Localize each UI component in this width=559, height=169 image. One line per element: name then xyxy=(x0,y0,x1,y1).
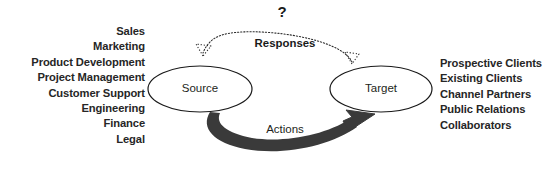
list-item: Finance xyxy=(0,116,145,131)
list-item: Existing Clients xyxy=(440,71,559,86)
target-node-label: Target xyxy=(331,82,431,94)
actions-arrowhead xyxy=(343,110,375,131)
list-item: Public Relations xyxy=(440,102,559,117)
list-item: Collaborators xyxy=(440,118,559,133)
list-item: Sales xyxy=(0,24,145,39)
diagram-canvas: ? Responses Actions Source Target Sales … xyxy=(0,0,559,169)
source-node-label: Source xyxy=(150,82,250,94)
source-roles-list: Sales Marketing Product Development Proj… xyxy=(0,24,145,147)
list-item: Marketing xyxy=(0,39,145,54)
actions-edge-label: Actions xyxy=(245,123,325,135)
list-item: Prospective Clients xyxy=(440,56,559,71)
question-mark-annotation: ? xyxy=(262,3,302,20)
list-item: Legal xyxy=(0,132,145,147)
list-item: Customer Support xyxy=(0,86,145,101)
responses-edge-label: Responses xyxy=(240,37,330,49)
list-item: Project Management xyxy=(0,70,145,85)
responses-arrowhead xyxy=(196,44,211,56)
list-item: Engineering xyxy=(0,101,145,116)
target-audiences-list: Prospective Clients Existing Clients Cha… xyxy=(440,56,559,133)
list-item: Channel Partners xyxy=(440,87,559,102)
list-item: Product Development xyxy=(0,55,145,70)
